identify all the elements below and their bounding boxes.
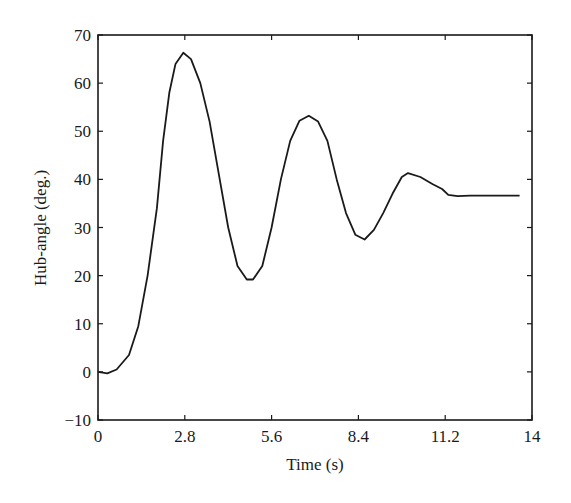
y-axis-label: Hub-angle (deg.): [31, 170, 50, 286]
x-axis-label: Time (s): [286, 455, 343, 474]
y-tick-label: 0: [83, 363, 92, 382]
y-tick-label: 30: [74, 219, 91, 238]
x-tick-label: 0: [94, 427, 103, 446]
chart: 02.85.68.411.214−10010203040506070 Time …: [0, 0, 571, 503]
x-tick-label: 5.6: [261, 427, 282, 446]
y-tick-label: 40: [74, 170, 91, 189]
x-tick-label: 11.2: [431, 427, 460, 446]
x-tick-label: 2.8: [174, 427, 195, 446]
x-tick-label: 14: [524, 427, 542, 446]
y-tick-label: −10: [64, 411, 91, 430]
y-tick-label: 10: [74, 315, 91, 334]
x-tick-label: 8.4: [348, 427, 370, 446]
y-tick-label: 50: [74, 122, 91, 141]
axis-ticks: [98, 35, 532, 420]
y-tick-label: 20: [74, 267, 91, 286]
hub-angle-line: [98, 53, 520, 374]
axis-tick-labels: 02.85.68.411.214−10010203040506070: [64, 26, 541, 446]
y-tick-label: 70: [74, 26, 91, 45]
y-tick-label: 60: [74, 74, 91, 93]
plot-frame: [98, 35, 532, 420]
plot-border: [98, 35, 532, 420]
